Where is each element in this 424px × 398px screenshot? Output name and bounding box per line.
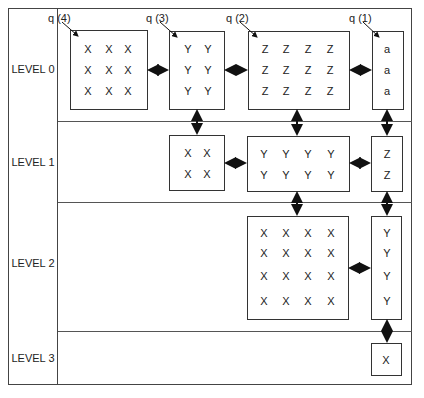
- arrows-layer: [0, 0, 424, 398]
